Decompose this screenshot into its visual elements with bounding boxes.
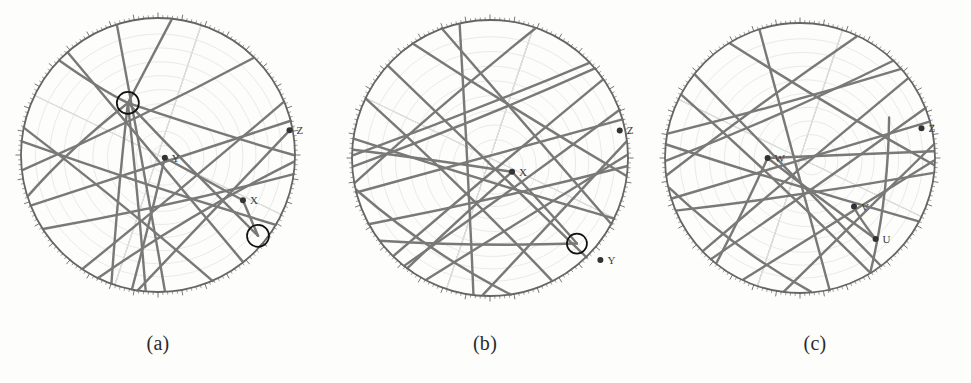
axis-label-z: Z bbox=[929, 122, 936, 134]
caption-row: (a) (b) (c) bbox=[0, 318, 971, 383]
great-circle-trace bbox=[768, 158, 876, 239]
great-circle-trace bbox=[353, 150, 512, 172]
stereographic-projection-figure: ZYX ZXY ZWVU (a) (b) (c) bbox=[0, 0, 971, 383]
wulff-net bbox=[35, 25, 282, 285]
axis-label-y: Y bbox=[607, 254, 615, 266]
axis-marker-y bbox=[597, 257, 603, 263]
wulff-net bbox=[678, 30, 922, 286]
axis-label-z: Z bbox=[627, 124, 634, 136]
caption-c: (c) bbox=[775, 332, 855, 355]
caption-b: (b) bbox=[445, 332, 525, 355]
axis-marker-v bbox=[851, 204, 857, 210]
great-circle-trace bbox=[512, 172, 577, 244]
axis-marker-x bbox=[509, 169, 515, 175]
axis-marker-x bbox=[240, 197, 246, 203]
axis-label-w: W bbox=[775, 152, 786, 164]
great-circle-trace bbox=[413, 43, 627, 175]
great-circle-trace bbox=[393, 79, 603, 256]
projection-net-b: ZXY bbox=[330, 0, 660, 320]
great-circle-trace bbox=[98, 162, 294, 278]
projection-net-a: ZYX bbox=[0, 0, 330, 320]
axis-label-v: V bbox=[861, 201, 869, 213]
axis-marker-z bbox=[919, 125, 925, 131]
panel-c: ZWVU bbox=[640, 0, 971, 320]
axis-marker-u bbox=[873, 236, 879, 242]
axis-marker-y bbox=[162, 155, 168, 161]
axis-marker-w bbox=[765, 155, 771, 161]
axis-marker-z bbox=[617, 127, 623, 133]
projection-net-c: ZWVU bbox=[640, 0, 971, 320]
axis-marker-z bbox=[287, 127, 293, 133]
great-circle-traces bbox=[353, 24, 626, 294]
axis-label-z: Z bbox=[297, 124, 304, 136]
panel-b: ZXY bbox=[330, 0, 660, 320]
axis-label-u: U bbox=[883, 233, 891, 245]
axis-label-y: Y bbox=[172, 152, 180, 164]
panel-a: ZYX bbox=[0, 0, 330, 320]
great-circle-trace bbox=[703, 78, 908, 251]
axis-label-x: X bbox=[250, 194, 258, 206]
great-circle-trace bbox=[676, 173, 934, 211]
caption-a: (a) bbox=[118, 332, 198, 355]
axis-label-x: X bbox=[519, 166, 527, 178]
